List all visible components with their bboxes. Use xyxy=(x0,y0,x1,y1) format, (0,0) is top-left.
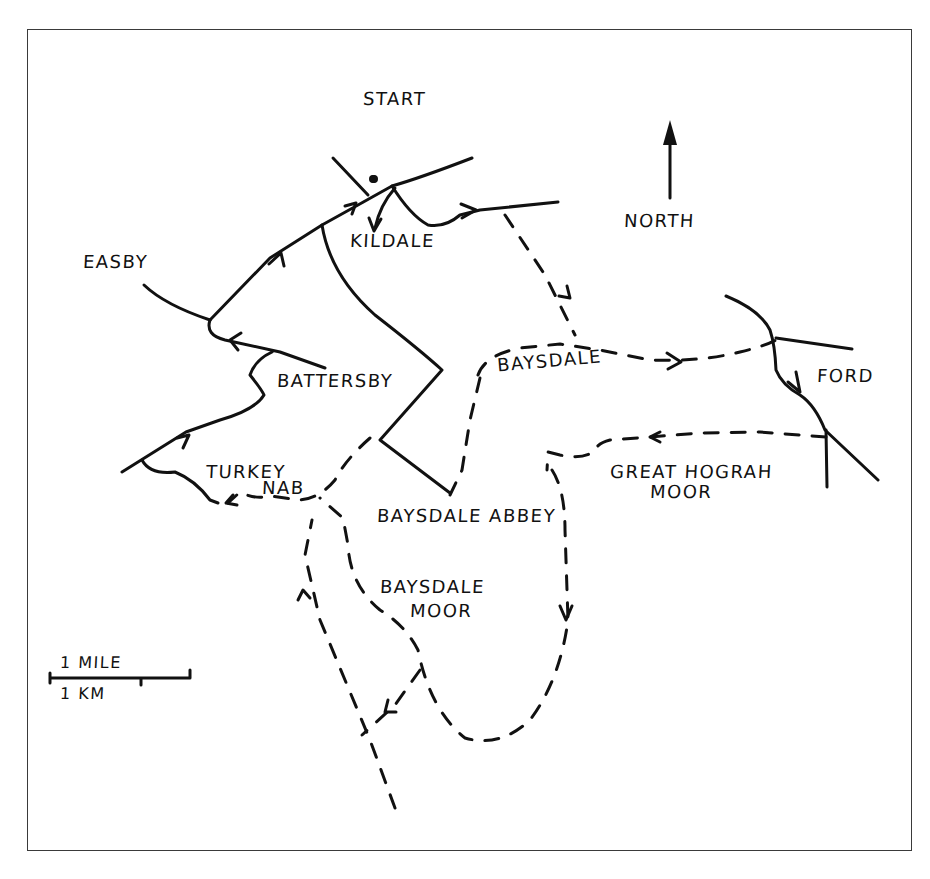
route-map xyxy=(0,0,930,879)
north-arrow-icon xyxy=(663,120,677,198)
north-label: NORTH xyxy=(624,212,696,230)
turkey-nab-label-line2: NAB xyxy=(262,479,306,497)
great-hograh-moor-label-line2: MOOR xyxy=(650,483,713,501)
scale-bar xyxy=(50,670,190,685)
ford-label: FORD xyxy=(817,367,875,385)
baysdale-abbey-label: BAYSDALE ABBEY xyxy=(377,507,557,525)
scale-km-label: 1 KM xyxy=(60,686,106,702)
start-label: START xyxy=(363,90,427,108)
baysdale-moor-label-line1: BAYSDALE xyxy=(380,578,486,596)
great-hograh-moor-label-line1: GREAT HOGRAH xyxy=(610,463,774,481)
baysdale-moor-label-line2: MOOR xyxy=(410,602,473,620)
easby-label: EASBY xyxy=(83,253,149,271)
path-direction-arrows xyxy=(226,286,681,712)
scale-miles-label: 1 MILE xyxy=(60,655,123,671)
roads xyxy=(122,158,878,503)
battersby-label: BATTERSBY xyxy=(277,372,394,390)
road-direction-arrows xyxy=(177,203,800,448)
start-pointer-icon xyxy=(369,188,395,231)
kildale-label: KILDALE xyxy=(350,232,436,250)
